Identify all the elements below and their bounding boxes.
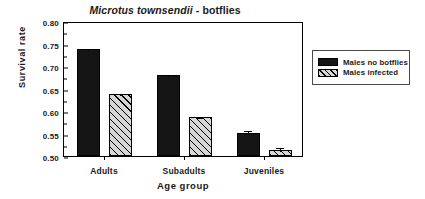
y-tick-mark bbox=[64, 68, 68, 69]
error-bar-cap bbox=[116, 94, 124, 95]
x-axis-label: Age group bbox=[63, 180, 303, 191]
y-minor-tick bbox=[64, 79, 67, 80]
error-bar-cap bbox=[276, 148, 284, 149]
y-axis-label: Survival rate bbox=[17, 0, 27, 117]
y-tick-mark bbox=[64, 158, 68, 159]
legend-item-males-infected: Males infected bbox=[318, 68, 405, 77]
y-tick-label: 0.60 bbox=[43, 109, 64, 118]
chart-title: Microtus townsendii - botflies bbox=[0, 4, 330, 16]
y-minor-tick bbox=[64, 56, 67, 57]
x-tick-label: Juveniles bbox=[244, 166, 285, 176]
bar-adults-series-1 bbox=[77, 49, 100, 156]
chart-legend: Males no botflies Males infected bbox=[312, 50, 410, 85]
y-tick-label: 0.75 bbox=[43, 41, 64, 50]
y-minor-tick bbox=[64, 146, 67, 147]
legend-label-2: Males infected bbox=[343, 68, 398, 77]
y-minor-tick bbox=[64, 101, 67, 102]
y-tick-label: 0.55 bbox=[43, 131, 64, 140]
y-tick-label: 0.50 bbox=[43, 154, 64, 163]
y-tick-mark bbox=[64, 45, 68, 46]
y-tick-mark bbox=[64, 90, 68, 91]
y-tick-mark bbox=[64, 113, 68, 114]
bar-adults-series-2 bbox=[109, 94, 132, 156]
y-tick-mark bbox=[64, 135, 68, 136]
x-tick-mark bbox=[104, 156, 105, 160]
x-tick-mark bbox=[184, 156, 185, 160]
bar-subadults-series-2 bbox=[189, 117, 212, 156]
y-minor-tick bbox=[64, 34, 67, 35]
x-tick-label: Subadults bbox=[163, 166, 206, 176]
error-bar-cap bbox=[196, 118, 204, 119]
y-tick-label: 0.70 bbox=[43, 64, 64, 73]
plot-area: 0.500.550.600.650.700.750.80AdultsSubadu… bbox=[63, 22, 303, 157]
legend-label-1: Males no botflies bbox=[343, 58, 408, 67]
title-suffix: - botflies bbox=[193, 4, 241, 16]
legend-swatch-hatch bbox=[318, 69, 338, 77]
y-minor-tick bbox=[64, 124, 67, 125]
x-tick-mark bbox=[264, 156, 265, 160]
title-species: Microtus townsendii bbox=[89, 4, 192, 16]
y-tick-mark bbox=[64, 23, 68, 24]
bar-juveniles-series-1 bbox=[237, 133, 260, 156]
chart-figure: Microtus townsendii - botflies Survival … bbox=[0, 0, 425, 199]
legend-item-males-no-botflies: Males no botflies bbox=[318, 58, 405, 67]
error-bar-cap bbox=[84, 49, 92, 50]
y-tick-label: 0.80 bbox=[43, 19, 64, 28]
bar-subadults-series-1 bbox=[157, 75, 180, 156]
legend-swatch-solid bbox=[318, 58, 338, 66]
x-tick-label: Adults bbox=[90, 166, 118, 176]
error-bar-cap bbox=[164, 75, 172, 76]
y-tick-label: 0.65 bbox=[43, 86, 64, 95]
error-bar-cap bbox=[244, 131, 252, 132]
